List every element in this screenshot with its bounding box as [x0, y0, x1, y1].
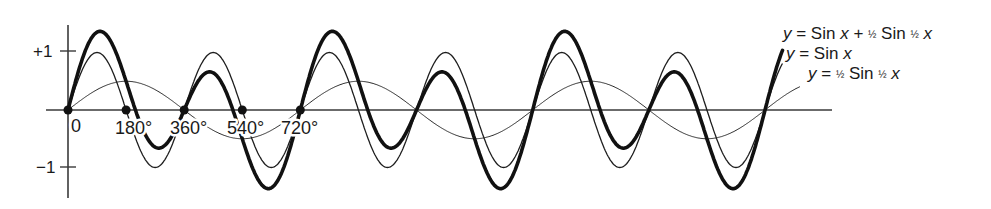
x-label-180: 180°	[115, 118, 152, 138]
legend-sum: y = Sin x + ½ Sin ½ x	[782, 24, 932, 43]
point-dot-0	[64, 106, 73, 115]
legend-half-sin: y = ½ Sin ½ x	[807, 64, 900, 83]
legend-sin: y = Sin x	[785, 44, 852, 63]
point-dot-720	[296, 106, 305, 115]
x-label-720: 720°	[281, 118, 318, 138]
sine-sum-chart: +1 −1 0 180° 360° 540° 720° y = Sin x + …	[0, 0, 991, 209]
point-dot-360	[180, 106, 189, 115]
x-label-0: 0	[71, 116, 81, 136]
y-label-plus-one: +1	[33, 42, 52, 61]
point-dot-540	[238, 106, 247, 115]
x-label-540: 540°	[227, 118, 264, 138]
x-label-360: 360°	[170, 118, 207, 138]
point-dot-180	[122, 106, 131, 115]
y-label-minus-one: −1	[36, 158, 55, 177]
